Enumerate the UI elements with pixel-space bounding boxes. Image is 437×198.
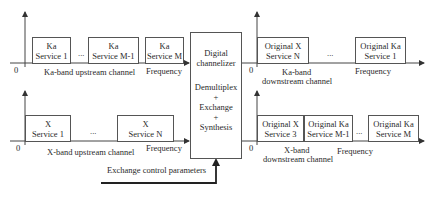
x-downstream-original-x-service-3: Original X Service 3 — [257, 115, 304, 142]
ka-upstream-frequency-label: Frequency — [146, 66, 182, 76]
x-upstream-ellipsis: ... — [90, 126, 96, 136]
service-band: Original X — [262, 119, 299, 129]
ka-upstream-service-1: Ka Service 1 — [32, 37, 71, 64]
channelizer-title-2: channelizer — [191, 58, 241, 68]
service-name: Service M — [376, 129, 411, 139]
service-band: Original Ka — [360, 41, 400, 51]
x-downstream-original-ka-service-m: Original Ka Service M — [368, 115, 419, 142]
ka-downstream-frequency-label: Frequency — [355, 66, 391, 76]
service-name: Service M — [147, 51, 182, 61]
service-band: Ka — [109, 41, 119, 51]
ka-upstream-service-m-1: Ka Service M-1 — [88, 37, 139, 64]
service-band: Ka — [47, 41, 57, 51]
service-band: Original Ka — [308, 119, 348, 129]
x-upstream-frequency-label: Frequency — [146, 143, 182, 153]
service-name: Service M-1 — [92, 51, 134, 61]
x-upstream-service-n: X Service N — [117, 115, 174, 142]
service-name: Service N — [266, 51, 300, 61]
service-name: Service 3 — [265, 129, 297, 139]
service-name: Service M-1 — [307, 129, 349, 139]
service-band: Original X — [265, 41, 302, 51]
step-synthesis: Synthesis — [191, 122, 241, 132]
service-name: Service 1 — [365, 51, 397, 61]
step-exchange: Exchange — [191, 102, 241, 112]
exchange-control-label: Exchange control parameters — [107, 165, 206, 175]
service-band: X — [142, 119, 148, 129]
plus-1: + — [191, 92, 241, 102]
digital-channelizer-block: Digital channelizer Demultiplex + Exchan… — [190, 32, 242, 159]
channelizer-title-1: Digital — [191, 48, 241, 58]
ka-downstream-ellipsis: ... — [327, 48, 333, 58]
x-downstream-ellipsis: ... — [356, 126, 362, 136]
service-band: Original Ka — [373, 119, 413, 129]
ka-downstream-original-x-service-n: Original X Service N — [257, 37, 309, 64]
ka-upstream-service-m: Ka Service M — [145, 37, 184, 64]
ka-downstream-origin: 0 — [249, 65, 253, 75]
x-upstream-channel-label: X-band upstream channel — [47, 147, 134, 157]
x-downstream-frequency-label: Frequency — [337, 146, 373, 156]
x-upstream-origin: 0 — [16, 143, 20, 153]
plus-2: + — [191, 112, 241, 122]
step-demultiplex: Demultiplex — [191, 82, 241, 92]
ka-upstream-channel-label: Ka-band upstream channel — [44, 67, 135, 77]
service-name: Service N — [129, 129, 163, 139]
x-downstream-channel-label-2: downstream channel — [263, 154, 333, 164]
service-name: Service 1 — [36, 51, 68, 61]
ka-upstream-ellipsis: ... — [78, 48, 84, 58]
service-name: Service 1 — [32, 129, 64, 139]
x-downstream-original-ka-service-m-1: Original Ka Service M-1 — [304, 115, 353, 142]
service-band: X — [45, 119, 51, 129]
ka-downstream-channel-label-2: downstream channel — [262, 76, 332, 86]
ka-downstream-original-ka-service-1: Original Ka Service 1 — [355, 37, 406, 64]
x-downstream-origin: 0 — [249, 143, 253, 153]
x-upstream-service-1: X Service 1 — [25, 115, 71, 142]
service-band: Ka — [160, 41, 170, 51]
ka-upstream-origin: 0 — [14, 65, 18, 75]
